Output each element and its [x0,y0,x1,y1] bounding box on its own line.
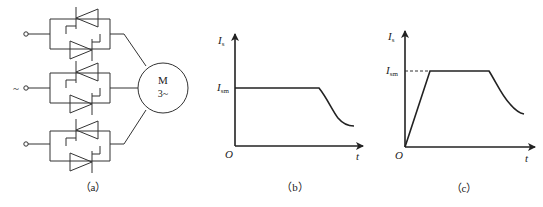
thyristor-pair-phase-1 [24,7,146,66]
current-curve [405,71,524,147]
thyristor-pair-phase-2 [24,61,138,115]
level-label: Ism [216,81,229,95]
motor-phase-label: 3~ [158,88,169,99]
caption-a: （a） [80,181,107,193]
panel-b-chart: Is Ism O t （b） [216,34,363,193]
caption-b: （b） [281,181,309,193]
motor-label: M [158,74,168,86]
caption-c: （c） [451,182,478,194]
terminal-phase-3 [24,142,28,146]
panel-a-circuit: ~ M 3~ （a） [13,7,188,193]
current-curve [235,88,354,126]
y-axis-label: Is [217,34,225,48]
x-axis-label: t [356,150,360,162]
origin-label: O [225,148,233,160]
thyristor-pair-phase-3 [24,110,146,173]
motor: M 3~ [138,63,188,113]
y-axis-label: Is [387,30,395,44]
origin-label: O [395,149,403,161]
panel-c-chart: Is Ism O t （c） [385,30,535,194]
terminal-phase-2 [24,86,28,90]
x-axis-label: t [525,152,529,164]
terminal-phase-1 [24,32,28,36]
ac-source-symbol: ~ [13,82,19,94]
level-label: Ism [385,64,398,78]
